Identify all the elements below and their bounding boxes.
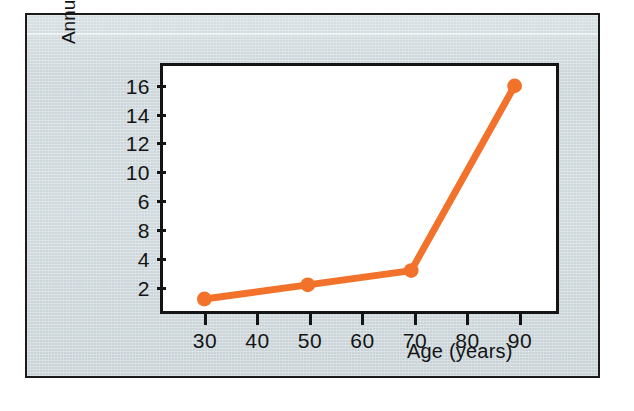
y-axis-tick-label: 12 xyxy=(126,133,157,154)
series-line xyxy=(204,86,514,299)
x-axis-tick-mark xyxy=(361,314,364,325)
data-point-marker xyxy=(507,79,522,94)
y-axis-tick-label: 6 xyxy=(138,191,157,212)
x-axis-tick-label: 30 xyxy=(193,330,217,351)
y-axis-tick-label: 14 xyxy=(126,105,157,126)
series-layer xyxy=(163,66,556,313)
x-axis-tick-mark xyxy=(414,314,417,325)
y-axis-tick-label: 8 xyxy=(138,220,157,241)
y-axis-title: Annual bed day occupancy per person xyxy=(57,0,103,55)
x-axis-tick-mark xyxy=(204,314,207,325)
scan-band-artifact xyxy=(27,33,598,35)
data-point-marker xyxy=(404,263,419,278)
x-axis-tick-mark xyxy=(466,314,469,325)
x-axis-tick-mark xyxy=(519,314,522,325)
x-axis-tick-label: 70 xyxy=(403,330,427,351)
x-axis-tick-label: 90 xyxy=(508,330,532,351)
series-markers xyxy=(197,79,522,307)
figure-panel: Annual bed day occupancy per person Age … xyxy=(25,13,600,378)
figure-root: Annual bed day occupancy per person Age … xyxy=(0,0,634,411)
plot-area: 161412106842 30405060708090 xyxy=(160,63,559,314)
x-axis-tick-label: 50 xyxy=(298,330,322,351)
x-axis-tick-label: 80 xyxy=(455,330,479,351)
x-axis-tick-label: 40 xyxy=(245,330,269,351)
data-point-marker xyxy=(197,292,212,307)
y-axis-tick-label: 16 xyxy=(126,76,157,97)
y-axis-tick-label: 10 xyxy=(126,162,157,183)
x-axis-tick-label: 60 xyxy=(350,330,374,351)
data-point-marker xyxy=(300,277,315,292)
y-axis-title-label: Annual bed day occupancy per person xyxy=(57,0,103,44)
y-axis-tick-label: 2 xyxy=(138,278,157,299)
plot-inner: 161412106842 30405060708090 xyxy=(163,66,556,311)
y-axis-tick-label: 4 xyxy=(138,249,157,270)
x-axis-tick-mark xyxy=(309,314,312,325)
x-axis-tick-mark xyxy=(256,314,259,325)
